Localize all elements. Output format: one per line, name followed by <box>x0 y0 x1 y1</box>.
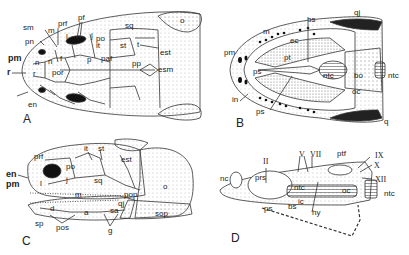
label-oc-b: oc <box>352 88 360 96</box>
label-hy: hy <box>312 209 320 217</box>
label-q: q <box>384 118 388 126</box>
label-pm-b: pm <box>224 49 235 57</box>
label-in: in <box>232 96 238 104</box>
label-p: p <box>87 56 91 64</box>
label-m-b: m <box>263 28 270 36</box>
label-d: d <box>50 205 54 213</box>
label-a: a <box>84 209 88 217</box>
label-pos: pos <box>56 224 69 232</box>
label-prf: prf <box>58 20 67 28</box>
label-l: l <box>66 33 68 41</box>
label-pm-c: pm <box>6 180 20 188</box>
panel-letter-c: C <box>22 235 31 247</box>
label-esm: esm <box>158 66 173 74</box>
label-pp: pp <box>132 60 141 68</box>
label-pn: pn <box>25 38 34 46</box>
label-sq: sq <box>125 22 133 30</box>
label-ps-b1: ps <box>253 68 261 76</box>
label-prs: prs <box>255 174 266 182</box>
label-r1: r <box>7 68 11 76</box>
label-l-c: l <box>40 180 42 188</box>
figure: sm m prf pf l j po it sq o st t est pp e… <box>0 0 409 255</box>
label-ntc-b: ntc <box>388 72 399 80</box>
label-nerve-ii: II <box>263 158 268 166</box>
label-pt: pt <box>284 54 291 62</box>
label-ps-d: ps <box>264 205 272 213</box>
label-prf-c: prf <box>34 153 43 161</box>
label-nerve-v: V <box>299 151 305 159</box>
skull-drawings <box>0 0 409 255</box>
label-j-c: j <box>66 176 68 184</box>
label-st: st <box>120 42 126 50</box>
label-sop: sop <box>155 210 168 218</box>
label-en-c: en <box>6 170 17 178</box>
label-pf: pf <box>78 14 85 22</box>
label-nerve-vii: VII <box>310 151 321 159</box>
label-ps-b2: ps <box>256 108 264 116</box>
label-rf: rf <box>355 21 360 29</box>
label-nerve-ix: IX <box>375 152 383 160</box>
label-st-c: st <box>98 145 104 153</box>
label-it-c: it <box>84 145 88 153</box>
label-sm: sm <box>23 24 34 32</box>
label-n1: n <box>35 59 39 67</box>
label-nc: nc <box>220 175 228 183</box>
label-est: est <box>160 49 171 57</box>
label-ec: ec <box>290 37 298 45</box>
panel-letter-d: D <box>231 232 240 244</box>
label-o: o <box>180 17 184 25</box>
label-ntc-inner: ntc <box>323 72 334 80</box>
label-paf: paf <box>101 55 112 63</box>
label-en: en <box>28 101 37 109</box>
label-sq-c: sq <box>94 177 102 185</box>
label-ntc-d-inner: ntc <box>294 184 305 192</box>
label-pop: pop <box>124 191 137 199</box>
panel-letter-a: A <box>23 113 31 125</box>
label-ic: ic <box>298 198 304 206</box>
panel-d-drawing <box>220 156 377 236</box>
label-m-c: m <box>75 191 82 199</box>
label-f: f <box>60 55 62 63</box>
label-qj: qj <box>354 9 360 17</box>
label-nerve-x: X <box>374 162 380 170</box>
label-por: por <box>52 69 64 77</box>
label-j: j <box>91 32 93 40</box>
label-ntc-d: ntc <box>384 190 395 198</box>
label-it: it <box>96 42 100 50</box>
label-sa: sa <box>110 207 118 215</box>
label-r2: r <box>33 70 36 78</box>
label-n2: n <box>48 58 52 66</box>
label-nerve-xii: XII <box>375 176 386 184</box>
label-qj-c: qj <box>118 200 124 208</box>
label-t: t <box>137 41 139 49</box>
label-oc-d: oc <box>342 187 350 195</box>
label-bs-d: bs <box>288 203 296 211</box>
label-g: g <box>108 227 112 235</box>
label-pm: pm <box>8 54 22 62</box>
label-ptf: ptf <box>337 150 346 158</box>
label-bo: bo <box>354 72 363 80</box>
panel-letter-b: B <box>236 117 244 129</box>
label-sp: sp <box>35 220 43 228</box>
label-o-c: o <box>163 183 167 191</box>
label-est-c: est <box>121 156 132 164</box>
label-m: m <box>48 27 55 35</box>
label-bs: bs <box>307 16 315 24</box>
label-po-c: po <box>66 163 75 171</box>
